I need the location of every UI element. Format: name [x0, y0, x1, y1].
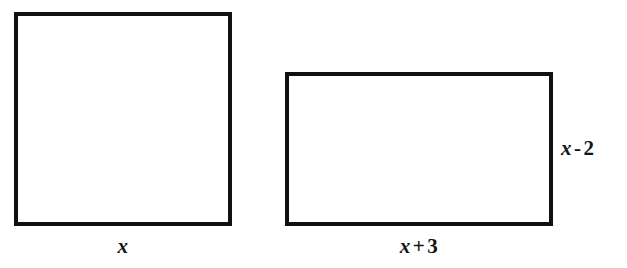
square-shape	[14, 12, 232, 226]
geometry-figure: x x+3 x-2	[0, 0, 627, 268]
rectangle-width-variable: x	[400, 234, 411, 258]
rectangle-width-constant: 3	[427, 234, 438, 258]
square-width-variable: x	[118, 234, 129, 258]
rectangle-shape	[285, 72, 553, 226]
rectangle-height-operator: -	[572, 136, 584, 160]
rectangle-height-constant: 2	[584, 136, 595, 160]
rectangle-height-variable: x	[561, 136, 572, 160]
rectangle-width-operator: +	[411, 234, 427, 258]
rectangle-height-label: x-2	[561, 136, 595, 161]
square-width-label: x	[118, 234, 129, 259]
rectangle-width-label: x+3	[400, 234, 438, 259]
